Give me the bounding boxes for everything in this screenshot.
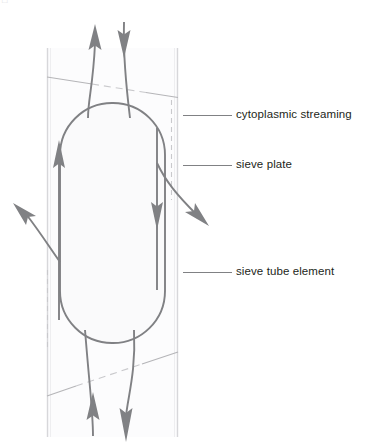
sieve-tube-diagram [0,0,366,447]
label-sieve-plate: sieve plate [236,159,292,171]
figure-canvas: □ [0,0,366,447]
label-sieve-tube-element: sieve tube element [236,266,334,278]
label-cytoplasmic-streaming: cytoplasmic streaming [236,109,352,121]
sieve-tube-element-body [60,103,165,343]
